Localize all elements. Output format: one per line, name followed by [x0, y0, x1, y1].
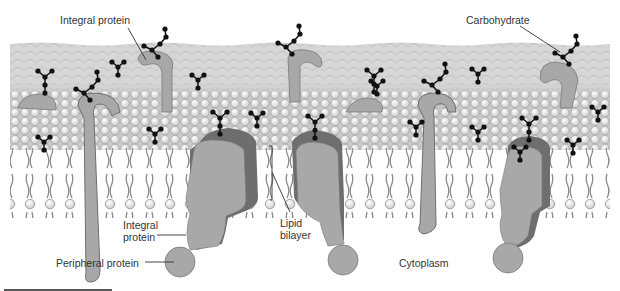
label-peripheral-protein: Peripheral protein [56, 257, 139, 269]
label-integral-protein-top: Integral protein [60, 14, 130, 26]
label-integral-protein-bottom-1: Integral [123, 219, 158, 231]
label-lipid-bilayer-1: Lipid [280, 217, 302, 229]
membrane-illustration [0, 0, 620, 291]
label-carbohydrate: Carbohydrate [466, 14, 530, 26]
label-integral-protein-bottom-2: protein [123, 231, 155, 243]
membrane-diagram: Integral protein Carbohydrate Integral p… [0, 0, 620, 291]
peripheral-protein-right [493, 243, 523, 273]
label-lipid-bilayer-2: bilayer [280, 229, 311, 241]
label-cytoplasm: Cytoplasm [399, 257, 449, 269]
peripheral-protein-middle [328, 245, 358, 275]
glycocalyx-layer [10, 43, 610, 91]
